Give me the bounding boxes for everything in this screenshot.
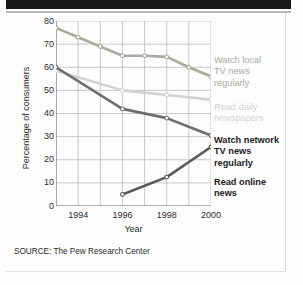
- legend-label-line: newspapers: [214, 113, 264, 124]
- y-tick-label: 20: [32, 155, 54, 164]
- legend-entry: Watch localTV newsregularly: [214, 55, 261, 89]
- chart-figure: Percentage of consumers 0102030405060708…: [0, 0, 303, 285]
- masthead-bar: [6, 0, 291, 9]
- plot-svg: [56, 21, 211, 206]
- x-tick-label: 1994: [63, 211, 93, 220]
- y-tick-label: 40: [32, 109, 54, 118]
- y-tick-label: 70: [32, 40, 54, 49]
- y-axis-tick-labels: 01020304050607080: [30, 21, 54, 206]
- x-tick-label: 2000: [196, 211, 226, 220]
- x-axis-title: Year: [56, 224, 211, 234]
- legend-label-line: regularly: [214, 158, 279, 169]
- legend-label-line: news: [214, 188, 266, 199]
- y-tick-label: 30: [32, 132, 54, 141]
- y-tick-label: 10: [32, 178, 54, 187]
- legend-label-line: Watch local: [214, 55, 261, 66]
- y-tick-label: 50: [32, 86, 54, 95]
- legend-entry: Read dailynewspapers: [214, 102, 264, 125]
- x-tick-label: 1998: [152, 211, 182, 220]
- panel-border-bottom: [6, 271, 286, 272]
- source-note: SOURCE: The Pew Research Center: [14, 247, 150, 256]
- y-tick-label: 0: [32, 202, 54, 211]
- legend-label-line: TV news: [214, 66, 261, 77]
- x-axis-tick-labels: 1994199619982000: [56, 209, 231, 223]
- x-tick-label: 1996: [107, 211, 137, 220]
- y-tick-label: 80: [32, 17, 54, 26]
- legend-entry: Watch networkTV newsregularly: [214, 135, 279, 169]
- legend-label-line: Read online: [214, 177, 266, 188]
- chart-area: Percentage of consumers 0102030405060708…: [0, 13, 303, 271]
- y-tick-label: 60: [32, 63, 54, 72]
- legend-entry: Read onlinenews: [214, 177, 266, 200]
- legend-label-line: Watch network: [214, 135, 279, 146]
- plot-canvas: [56, 21, 211, 206]
- legend-label-line: regularly: [214, 78, 261, 89]
- legend-label-line: Read daily: [214, 102, 264, 113]
- legend-label-line: TV news: [214, 146, 279, 157]
